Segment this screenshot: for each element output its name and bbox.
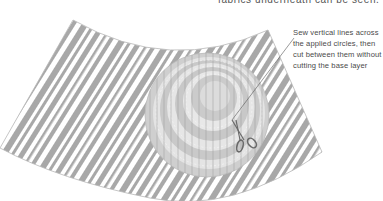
annotation-line: cut between them without	[293, 49, 383, 60]
annotation-line: cutting the base layer	[293, 60, 383, 71]
caption-top: fabrics underneath can be seen.	[218, 0, 383, 5]
annotation-line: Sew vertical lines across	[293, 27, 383, 38]
annotation-line: the applied circles, then	[293, 38, 383, 49]
diagram-canvas: fabrics underneath can be seen. Sew vert…	[0, 0, 383, 201]
instruction-annotation: Sew vertical lines across the applied ci…	[293, 27, 383, 71]
